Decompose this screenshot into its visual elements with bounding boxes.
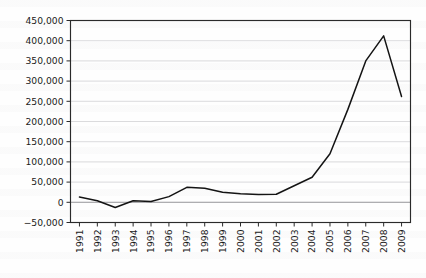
x-tick-label: 1996: [163, 229, 174, 253]
x-tick-label: 1999: [217, 229, 228, 253]
chart-page: −50,000050,000100,000150,000200,000250,0…: [0, 0, 426, 278]
x-tick-label: 2003: [289, 229, 300, 253]
x-tick-label: 1994: [128, 229, 139, 253]
line-chart: −50,000050,000100,000150,000200,000250,0…: [0, 0, 426, 278]
x-tick-label: 1995: [145, 229, 156, 253]
y-tick-label: 50,000: [31, 176, 63, 187]
x-tick-label: 1993: [110, 229, 121, 253]
y-tick-label: 450,000: [26, 15, 64, 26]
x-tick-label: 1991: [74, 230, 85, 253]
x-tick-label: 2007: [360, 229, 371, 253]
x-tick-label: 1997: [181, 229, 192, 253]
y-tick-label: 350,000: [26, 55, 64, 66]
y-tick-label: 200,000: [26, 116, 64, 127]
y-tick-label: 100,000: [26, 156, 64, 167]
x-tick-label: 2000: [235, 229, 246, 253]
x-tick-label: 2008: [378, 229, 389, 253]
y-tick-label: 400,000: [26, 35, 64, 46]
x-tick-label: 2005: [324, 229, 335, 253]
x-tick-label: 2006: [342, 229, 353, 253]
y-tick-label: −50,000: [24, 217, 64, 228]
x-tick-label: 2009: [396, 229, 407, 253]
gridlines: [71, 41, 411, 203]
x-tick-label: 2004: [306, 229, 317, 253]
y-tick-label: 300,000: [26, 75, 64, 86]
x-tick-label: 1998: [199, 229, 210, 253]
x-axis-tick-labels: 1991199219931994199519961997199819992000…: [74, 229, 407, 253]
y-axis-tick-labels: −50,000050,000100,000150,000200,000250,0…: [24, 15, 64, 228]
x-tick-label: 2002: [271, 230, 282, 253]
y-tick-label: 0: [58, 197, 64, 208]
x-tick-label: 2001: [253, 230, 264, 253]
axis-tickmarks: [67, 21, 402, 227]
x-tick-label: 1992: [92, 230, 103, 253]
y-tick-label: 250,000: [26, 96, 64, 107]
y-tick-label: 150,000: [26, 136, 64, 147]
